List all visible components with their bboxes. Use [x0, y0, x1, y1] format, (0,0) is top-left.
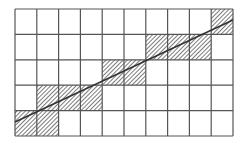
shaded-cell: [124, 60, 146, 85]
shaded-cell: [15, 111, 37, 136]
shaded-cell: [37, 111, 59, 136]
shaded-cell: [59, 85, 81, 110]
shaded-cell: [168, 34, 190, 59]
grid-diagram: [0, 0, 243, 149]
